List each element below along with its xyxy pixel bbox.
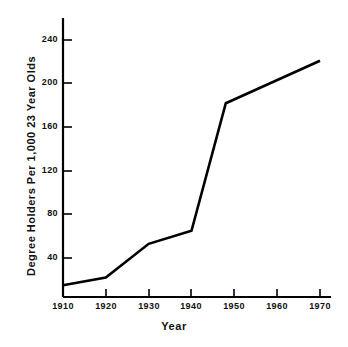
- line-chart: 240 200 160 120 80 40 1910 1920 1930 194…: [0, 0, 348, 347]
- x-tick-label-1940: 1940: [171, 301, 211, 311]
- data-series-line: [63, 61, 320, 286]
- x-tick-label-1960: 1960: [257, 301, 297, 311]
- x-tick-label-1920: 1920: [86, 301, 126, 311]
- y-axis-ticks: [63, 40, 72, 258]
- y-axis-title: Degree Holders Per 1,000 23 Year Olds: [25, 11, 37, 321]
- x-axis-title: Year: [0, 320, 348, 332]
- x-tick-label-1910: 1910: [43, 301, 83, 311]
- x-axis-ticks: [63, 289, 320, 297]
- x-tick-label-1930: 1930: [129, 301, 169, 311]
- x-tick-label-1970: 1970: [300, 301, 340, 311]
- x-tick-label-1950: 1950: [214, 301, 254, 311]
